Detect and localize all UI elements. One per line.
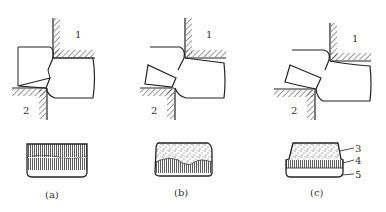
workpiece-right — [175, 58, 225, 98]
panel-c-shear: 1 2 — [274, 23, 371, 120]
lower-die-label: 2 — [23, 105, 29, 116]
upper-die-label: 1 — [352, 33, 358, 44]
caption-c: (c) — [310, 187, 324, 198]
leader-4 — [343, 160, 354, 163]
caption-a: (a) — [45, 189, 59, 200]
panel-a-section — [27, 144, 87, 177]
workpiece-right — [46, 58, 95, 98]
leader-3 — [340, 148, 354, 151]
panel-c-section: 3 4 5 — [286, 143, 361, 180]
workpiece-right — [316, 61, 371, 101]
shearing-diagram: 1 2 1 2 1 2 — [0, 0, 386, 212]
workpiece-left — [145, 47, 185, 87]
upper-die-label: 1 — [206, 29, 212, 40]
zone-label-5: 5 — [355, 169, 361, 180]
caption-b: (b) — [174, 187, 188, 198]
lower-die-vertical-hatch — [39, 89, 46, 119]
panel-a-shear: 1 2 — [12, 18, 95, 120]
panel-b-section — [155, 143, 212, 176]
lower-die-label: 2 — [151, 105, 157, 116]
lower-die-label: 2 — [291, 105, 297, 116]
panel-b-shear: 1 2 — [140, 18, 226, 120]
zone-label-3: 3 — [355, 143, 361, 154]
zone-label-4: 4 — [355, 155, 361, 166]
upper-die-label: 1 — [75, 29, 81, 40]
upper-die-horizontal-hatch — [54, 50, 94, 57]
workpiece-left — [285, 50, 329, 89]
workpiece-left — [18, 47, 53, 88]
